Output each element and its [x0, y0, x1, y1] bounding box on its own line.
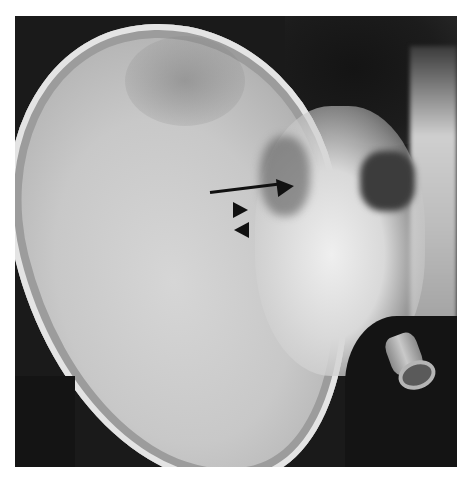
- orbit-region: [260, 136, 310, 216]
- arrowhead-right-icon: [233, 202, 248, 218]
- film-edge-dark: [15, 376, 75, 467]
- sinus-region: [360, 151, 415, 211]
- annotation-arrow-icon: [276, 177, 295, 197]
- arrowhead-left-icon: [234, 222, 249, 238]
- xray-image: [15, 16, 457, 467]
- figure-caption: [15, 470, 465, 485]
- skull-shadow: [125, 36, 245, 126]
